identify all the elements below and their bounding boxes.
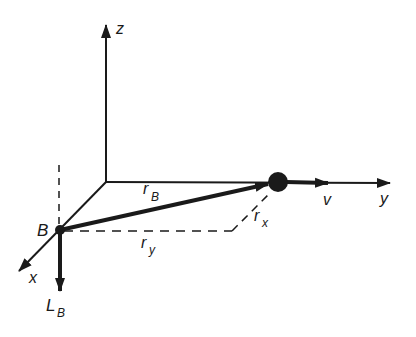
r-x-label-sub: x [261,216,269,230]
point-b-label: B [37,221,48,240]
y-axis-label: y [379,190,389,207]
z-axis-label: z [115,20,124,37]
l-b-label-sub: B [57,306,65,320]
r-b-vector [60,184,268,230]
r-x-label-main: r [254,207,260,224]
velocity-label: v [323,191,332,208]
r-b-label-main: r [143,180,149,197]
x-axis-label: x [28,269,38,286]
point-b-marker [55,225,65,235]
r-y-label-main: r [141,234,147,251]
l-b-label-main: L [46,296,55,315]
angular-momentum-diagram: z y x v B r B r y r x L B [0,0,416,337]
r-y-label-sub: y [148,243,156,257]
velocity-vector [286,182,328,183]
y-axis [106,182,390,183]
particle [268,172,288,192]
r-b-label-sub: B [151,190,159,204]
